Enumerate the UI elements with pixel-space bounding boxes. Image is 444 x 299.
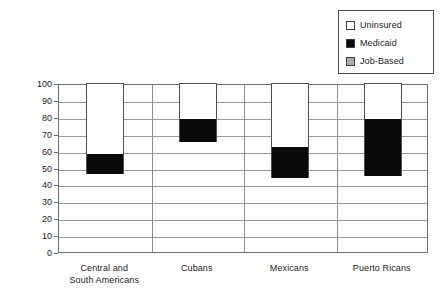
x-tick-label-line1: Central and xyxy=(80,263,128,273)
y-tick-mark xyxy=(54,253,58,254)
x-tick-label: Mexicans xyxy=(243,262,336,274)
y-tick-label: 80 xyxy=(26,114,52,123)
bar-segment-medicaid[interactable] xyxy=(179,119,217,143)
y-tick-label: 30 xyxy=(26,198,52,207)
x-tick-label-line2: South Americans xyxy=(58,274,151,286)
bar-segment-job-based[interactable] xyxy=(179,142,217,252)
plot-area xyxy=(58,84,428,253)
chart-legend: Uninsured Medicaid Job-Based xyxy=(338,10,434,74)
y-tick-label: 20 xyxy=(26,215,52,224)
bar-segment-medicaid[interactable] xyxy=(364,119,402,176)
bar-segment-job-based[interactable] xyxy=(364,176,402,252)
bar-group[interactable] xyxy=(179,83,217,252)
bar-segment-uninsured[interactable] xyxy=(271,83,309,147)
legend-label-medicaid: Medicaid xyxy=(360,39,397,48)
y-tick-label: 40 xyxy=(26,181,52,190)
x-tick-label: Puerto Ricans xyxy=(336,262,429,274)
y-tick-label: 70 xyxy=(26,131,52,140)
y-tick-label: 50 xyxy=(26,165,52,174)
bar-segment-uninsured[interactable] xyxy=(179,83,217,118)
x-tick-label-line1: Cubans xyxy=(181,263,213,273)
legend-swatch-uninsured xyxy=(346,21,355,30)
bar-segment-uninsured[interactable] xyxy=(364,83,402,118)
legend-label-job-based: Job-Based xyxy=(360,57,404,66)
bar-group[interactable] xyxy=(364,83,402,252)
legend-item-job-based: Job-Based xyxy=(346,52,433,70)
x-tick-label: Central andSouth Americans xyxy=(58,262,151,286)
y-tick-label: 60 xyxy=(26,148,52,157)
bar-group[interactable] xyxy=(271,83,309,252)
y-tick-label: 0 xyxy=(26,249,52,258)
legend-swatch-medicaid xyxy=(346,39,355,48)
y-tick-label: 100 xyxy=(26,80,52,89)
gridline-vertical xyxy=(152,85,153,252)
legend-label-uninsured: Uninsured xyxy=(360,21,402,30)
gridline-vertical xyxy=(337,85,338,252)
bar-segment-medicaid[interactable] xyxy=(86,154,124,174)
bar-segment-medicaid[interactable] xyxy=(271,147,309,177)
bar-segment-uninsured[interactable] xyxy=(86,83,124,154)
bar-segment-job-based[interactable] xyxy=(86,174,124,252)
y-tick-label: 10 xyxy=(26,232,52,241)
x-tick-label-line1: Puerto Ricans xyxy=(353,263,411,273)
bar-group[interactable] xyxy=(86,83,124,252)
x-tick-label-line1: Mexicans xyxy=(270,263,309,273)
gridline-vertical xyxy=(244,85,245,252)
x-tick-label: Cubans xyxy=(151,262,244,274)
legend-item-uninsured: Uninsured xyxy=(346,16,433,34)
legend-swatch-job-based xyxy=(346,57,355,66)
legend-item-medicaid: Medicaid xyxy=(346,34,433,52)
y-tick-label: 90 xyxy=(26,97,52,106)
bar-segment-job-based[interactable] xyxy=(271,178,309,252)
